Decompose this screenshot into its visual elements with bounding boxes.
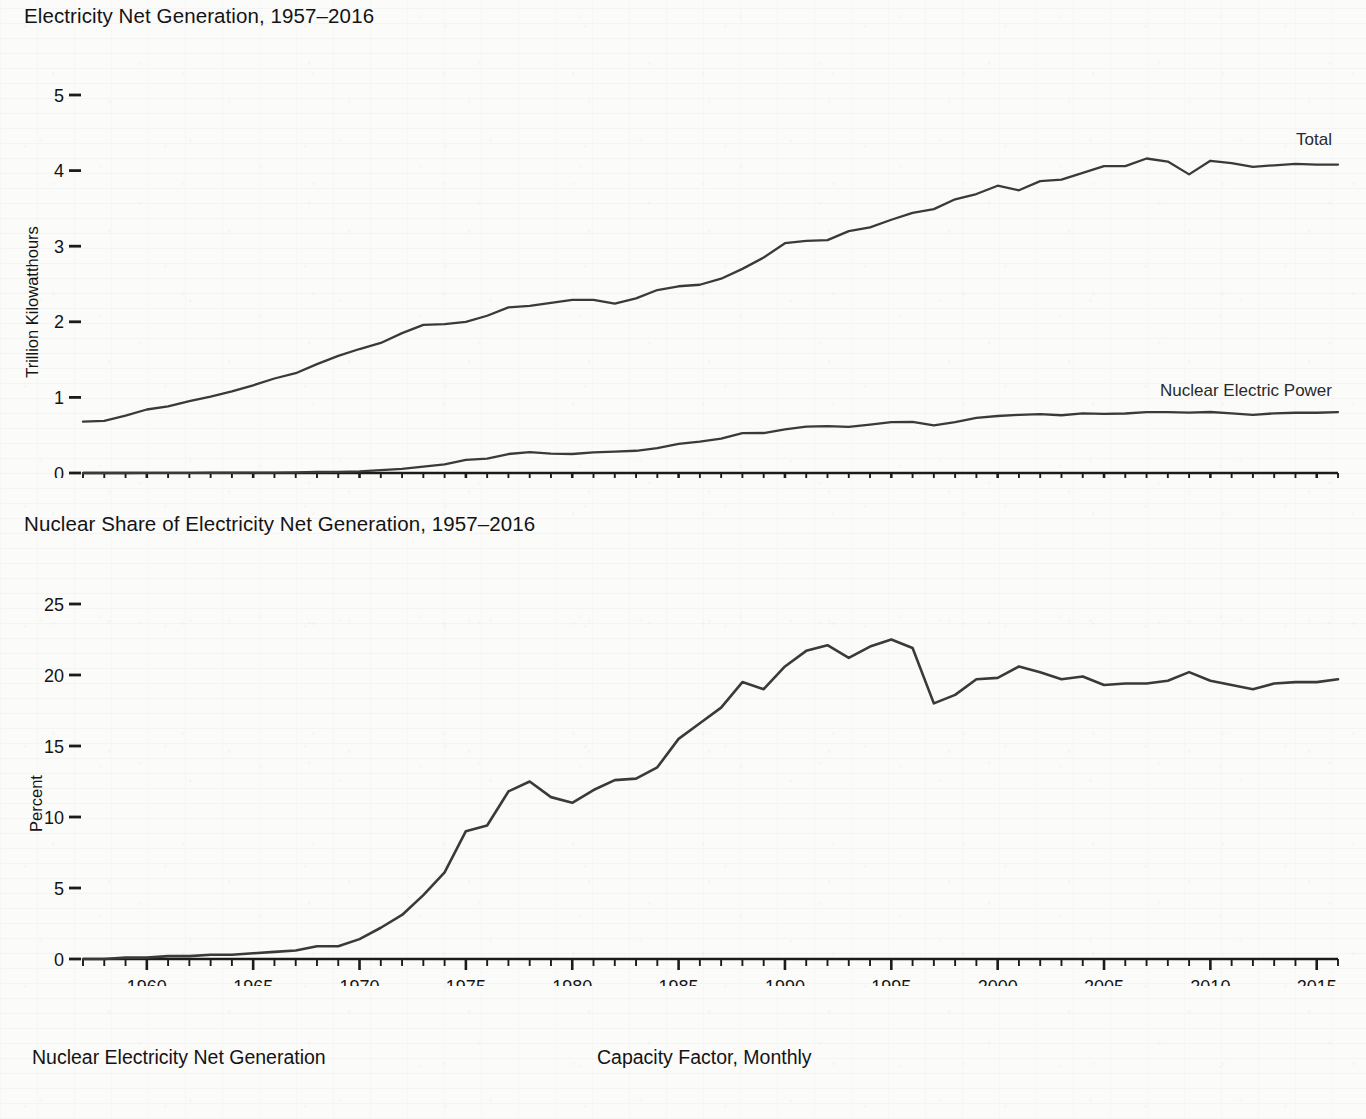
x-axis-tick-label: 2010 [1190, 977, 1230, 986]
x-axis-tick-label: 1990 [765, 977, 805, 986]
y-axis-tick-label: 3 [54, 237, 64, 257]
caption-capacity-factor-monthly: Capacity Factor, Monthly [597, 1046, 812, 1069]
x-axis-tick-label: 1960 [127, 977, 167, 986]
x-axis-tick-label: 1985 [659, 977, 699, 986]
y-axis-tick-label: 2 [54, 312, 64, 332]
section-captions: Nuclear Electricity Net Generation Capac… [0, 1046, 1366, 1096]
chart-block-nuclear-share: Nuclear Share of Electricity Net Generat… [0, 512, 1366, 986]
y-axis-tick-label: 15 [44, 737, 64, 757]
chart-plot-group: 1960196519701975198019851990199520002005… [23, 86, 1338, 479]
x-axis-tick-label: 2005 [1084, 977, 1124, 986]
x-axis-tick-label: 1980 [552, 977, 592, 986]
y-axis-title: Trillion Kilowatthours [23, 226, 41, 378]
chart-block-electricity-net-generation: Electricity Net Generation, 1957–2016 19… [0, 0, 1366, 478]
series-line [83, 640, 1338, 960]
x-axis-tick-label: 1995 [871, 977, 911, 986]
y-axis-tick-label: 5 [54, 86, 64, 106]
y-axis-tick-label: 20 [44, 666, 64, 686]
caption-nuclear-electricity-net-generation: Nuclear Electricity Net Generation [32, 1046, 326, 1069]
chart-svg-electricity-net-generation: 1960196519701975198019851990199520002005… [0, 28, 1366, 478]
x-axis-tick-label: 1970 [340, 977, 380, 986]
y-axis-tick-label: 4 [54, 161, 64, 181]
y-axis-tick-label: 1 [54, 388, 64, 408]
y-axis-tick-label: 0 [54, 464, 64, 479]
chart-title-nuclear-share: Nuclear Share of Electricity Net Generat… [24, 512, 1366, 536]
chart-plot-group: 1960196519701975198019851990199520002005… [27, 595, 1338, 987]
chart-svg-nuclear-share: 1960196519701975198019851990199520002005… [0, 536, 1366, 986]
y-axis-tick-label: 5 [54, 879, 64, 899]
x-axis-tick-label: 2015 [1297, 977, 1337, 986]
series-line [83, 159, 1338, 422]
x-axis-tick-label: 1975 [446, 977, 486, 986]
plot-area-electricity-net-generation: 1960196519701975198019851990199520002005… [0, 28, 1366, 478]
series-label-nuclear-electric-power: Nuclear Electric Power [1160, 381, 1332, 400]
y-axis-tick-label: 0 [54, 950, 64, 970]
x-axis-tick-label: 2000 [978, 977, 1018, 986]
y-axis-tick-label: 25 [44, 595, 64, 615]
series-line [83, 412, 1338, 473]
x-axis-tick-label: 1965 [233, 977, 273, 986]
chart-title-electricity-net-generation: Electricity Net Generation, 1957–2016 [24, 4, 1366, 28]
plot-area-nuclear-share: 1960196519701975198019851990199520002005… [0, 536, 1366, 986]
y-axis-tick-label: 10 [44, 808, 64, 828]
y-axis-title: Percent [27, 775, 45, 832]
series-label-total: Total [1296, 130, 1332, 149]
